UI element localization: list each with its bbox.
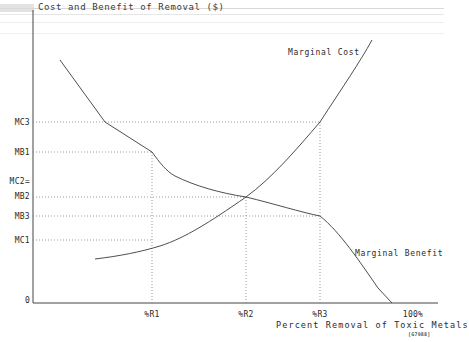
marginal-cost-label: Marginal Cost bbox=[288, 48, 360, 57]
x-tick-100: 100% bbox=[403, 310, 423, 319]
y-tick-mb1: MB1 bbox=[0, 148, 30, 157]
y-tick-mc3: MC3 bbox=[0, 118, 30, 127]
x-tick-r1: %R1 bbox=[144, 310, 159, 319]
y-tick-mb2: MB2 bbox=[0, 192, 30, 201]
marginal-benefit-label: Marginal Benefit bbox=[355, 249, 443, 258]
y-tick-mb3: MB3 bbox=[0, 212, 30, 221]
y-tick-mc1: MC1 bbox=[0, 236, 30, 245]
marginal-benefit-curve bbox=[60, 60, 392, 303]
reference-code: [G7988] bbox=[408, 331, 430, 337]
x-tick-r2: %R2 bbox=[238, 310, 253, 319]
y-tick-mc2: MC2= bbox=[0, 177, 30, 186]
y-tick-zero: 0 bbox=[0, 296, 30, 305]
x-axis-title: Percent Removal of Toxic Metals bbox=[276, 320, 469, 330]
x-tick-r3: %R3 bbox=[312, 310, 327, 319]
